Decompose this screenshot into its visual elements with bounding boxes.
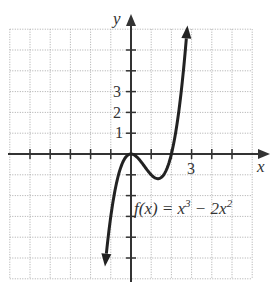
y-axis-arrow-icon [126,14,136,26]
y-tick-label-1: 1 [115,124,123,141]
axes [8,14,270,282]
y-axis-label: y [111,9,121,28]
x-tick-label-3: 3 [187,160,195,177]
y-tick-label-3: 3 [113,83,121,100]
y-tick-label-2: 2 [113,104,121,121]
function-graph: y x 3 3 2 1 f(x) = x3 − 2x2 [0,0,277,284]
function-curve [106,38,186,253]
curve-arrow-up-icon [181,25,191,38]
function-label: f(x) = x3 − 2x2 [134,197,233,218]
curve-arrow-down-icon [101,253,111,266]
x-axis-label: x [256,157,265,176]
